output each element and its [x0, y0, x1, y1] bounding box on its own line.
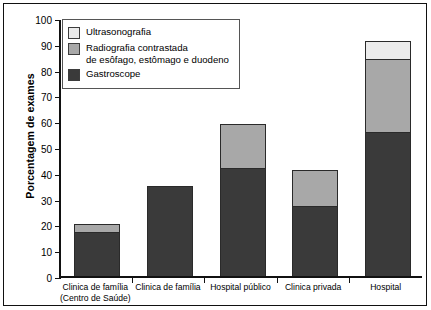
legend-label-radiografia-line1: Radiografia contrastada — [86, 42, 188, 53]
x-axis-label-line: Clinica de família — [59, 282, 132, 293]
y-axis-tick-label: 70 — [41, 92, 52, 103]
legend-label-radiografia-line2: de esôfago, estômago e duodeno — [86, 54, 229, 65]
x-axis-band: Clinica de família(Centro de Saúde)Clini… — [59, 278, 422, 306]
x-axis-label: Hospital — [349, 282, 422, 293]
legend-swatch-ultrasonografia — [68, 27, 80, 39]
legend-swatch-gastroscope — [68, 69, 80, 81]
y-axis-tick — [55, 149, 61, 150]
x-axis-label-line: (Centro de Saúde) — [59, 293, 132, 304]
bar-column[interactable] — [74, 224, 120, 276]
bar-segment — [147, 186, 193, 276]
y-axis-tick — [55, 123, 61, 124]
bar-segment — [74, 232, 120, 276]
y-axis-tick — [55, 201, 61, 202]
bar-segment — [74, 224, 120, 232]
x-axis-label-line: Hospital — [349, 282, 422, 293]
y-axis-tick-label: 50 — [41, 144, 52, 155]
bar-segment — [220, 168, 266, 276]
x-axis-label-line: Hospital público — [204, 282, 277, 293]
y-axis-tick — [55, 252, 61, 253]
y-axis-tick-label: 80 — [41, 66, 52, 77]
bar-column[interactable] — [365, 41, 411, 276]
bar-column[interactable] — [220, 124, 266, 276]
y-axis-tick — [55, 72, 61, 73]
x-axis-label-line: Clinica de família — [132, 282, 205, 293]
y-axis-tick — [55, 46, 61, 47]
bar-segment — [292, 206, 338, 276]
y-axis-title: Porcentagem de exames — [24, 36, 36, 236]
legend-item-gastroscope: Gastroscope — [68, 68, 234, 81]
x-axis-label-line: Clinica privada — [277, 282, 350, 293]
y-axis-tick — [55, 226, 61, 227]
y-axis-tick-label: 10 — [41, 247, 52, 258]
y-axis-tick-label: 60 — [41, 118, 52, 129]
x-axis-label: Hospital público — [204, 282, 277, 293]
y-axis-tick — [55, 20, 61, 21]
x-axis-label: Clinica de família(Centro de Saúde) — [59, 282, 132, 304]
bar-segment — [365, 41, 411, 59]
x-axis-label: Clinica de família — [132, 282, 205, 293]
chart-legend: Ultrasonografia Radiografia contrastada … — [62, 19, 240, 89]
y-axis-tick-label: 90 — [41, 40, 52, 51]
bar-column[interactable] — [147, 186, 193, 276]
bar-segment — [365, 132, 411, 276]
chart-figure: Porcentagem de exames 010203040506070809… — [0, 0, 431, 310]
legend-item-radiografia: Radiografia contrastada de esôfago, estô… — [68, 42, 234, 65]
y-axis-tick-label: 0 — [46, 273, 52, 284]
y-axis-tick-label: 20 — [41, 221, 52, 232]
legend-label-radiografia: Radiografia contrastada de esôfago, estô… — [86, 42, 229, 65]
y-axis-tick-label: 30 — [41, 195, 52, 206]
bar-segment — [292, 170, 338, 206]
y-axis-tick — [55, 97, 61, 98]
bar-segment — [365, 59, 411, 131]
y-axis-tick — [55, 175, 61, 176]
y-axis-tick-label: 100 — [35, 15, 52, 26]
y-axis-tick-label: 40 — [41, 169, 52, 180]
legend-item-ultrasonografia: Ultrasonografia — [68, 26, 234, 39]
x-axis-label: Clinica privada — [277, 282, 350, 293]
legend-label-ultrasonografia: Ultrasonografia — [86, 26, 151, 38]
bar-column[interactable] — [292, 170, 338, 276]
bar-segment — [220, 124, 266, 168]
legend-swatch-radiografia — [68, 43, 80, 55]
legend-label-gastroscope: Gastroscope — [86, 68, 140, 80]
